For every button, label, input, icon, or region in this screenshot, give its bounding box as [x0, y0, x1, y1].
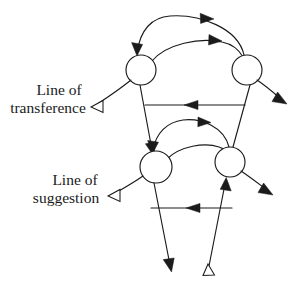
pointer-hollow-triangle-suggestion [108, 190, 120, 202]
edge-right-diagonal-down [233, 85, 250, 147]
label-suggestion-line1: Line of [52, 171, 98, 188]
edge-transference-pointer [99, 80, 131, 103]
arrowhead-top-outer-arc-end [132, 43, 143, 56]
edge-bottom-left-exit [154, 183, 170, 265]
edge-top-inner-arc [152, 40, 243, 61]
edge-left-diagonal-down [140, 85, 152, 150]
arrowhead-top-horizontal [184, 100, 198, 109]
arrowhead-top-inner-arc [209, 35, 223, 46]
terminal-hollow-triangle [203, 264, 215, 276]
edge-bottom-right-entry [209, 184, 225, 266]
node-bottom-left[interactable] [140, 151, 172, 183]
label-suggestion-line2: suggestion [33, 189, 100, 206]
arrowhead-bottom-outer-arc [198, 117, 211, 127]
diagram-canvas: Line of transference Line of suggestion [0, 0, 298, 285]
edge-bottom-outer-arc [153, 120, 229, 150]
arrowhead-bottom-horizontal [186, 203, 200, 212]
arrowhead-bottom-left-exit [163, 258, 174, 272]
node-bottom-right[interactable] [215, 147, 245, 177]
pointer-hollow-triangle-transference [91, 101, 103, 113]
arrowhead-bottom-right-entry [220, 178, 231, 191]
label-transference-line1: Line of [36, 81, 82, 98]
diagram-root: Line of transference Line of suggestion [0, 0, 298, 285]
edge-top-outer-arc [137, 16, 244, 55]
edge-suggestion-pointer [117, 176, 143, 192]
label-transference-line2: transference [10, 99, 86, 116]
